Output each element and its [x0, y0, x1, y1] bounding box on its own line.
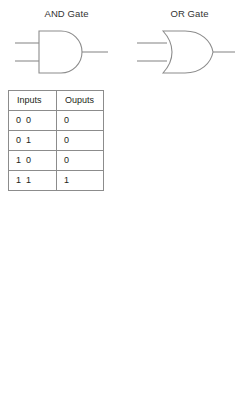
gate-panel-xor: Exclusive OR Gate Inputs Ouputs 0 0 0 [125, 201, 250, 402]
cell-inputs: 0 0 [9, 111, 57, 131]
gate-panel-and: AND Gate Inputs Ouputs 0 0 0 0 1 [0, 0, 125, 201]
gate-title-or: OR Gate [125, 8, 250, 20]
gate-title-and: AND Gate [0, 8, 129, 20]
table-row: 0 1 0 [9, 131, 104, 151]
table-row: 1 0 0 [9, 151, 104, 171]
cell-output: 1 [57, 171, 104, 191]
table-row: 0 0 0 [9, 111, 104, 131]
cell-inputs: 0 1 [9, 131, 57, 151]
table-row: 1 1 1 [9, 171, 104, 191]
cell-inputs: 1 1 [9, 171, 57, 191]
cell-inputs: 1 0 [9, 151, 57, 171]
cell-output: 0 [57, 111, 104, 131]
table-header-row: Inputs Ouputs [9, 91, 104, 111]
gate-panel-not: NOT Gate Inputs Ouputs 0 1 1 [0, 201, 125, 402]
cell-output: 0 [57, 151, 104, 171]
column-header-outputs: Ouputs [57, 91, 104, 111]
cell-output: 0 [57, 131, 104, 151]
or-gate-symbol [125, 26, 250, 78]
column-header-inputs: Inputs [9, 91, 57, 111]
gate-panel-or: OR Gate Inputs Ouputs 0 0 0 0 1 [125, 0, 250, 201]
and-gate-symbol [0, 26, 125, 78]
truth-table-and: Inputs Ouputs 0 0 0 0 1 0 1 0 0 1 1 1 [8, 90, 104, 191]
